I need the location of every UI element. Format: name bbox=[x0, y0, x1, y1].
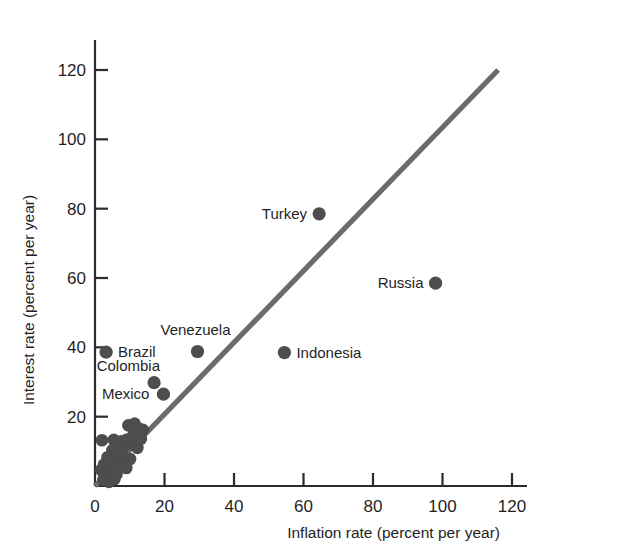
data-point-venezuela bbox=[191, 345, 204, 358]
data-point-russia bbox=[429, 277, 442, 290]
y-tick-label-80: 80 bbox=[67, 200, 86, 219]
x-axis-title: Inflation rate (percent per year) bbox=[287, 524, 500, 541]
data-point-turkey bbox=[313, 207, 326, 220]
point-label-venezuela: Venezuela bbox=[160, 321, 231, 338]
y-axis-title: Interest rate (percent per year) bbox=[20, 195, 37, 405]
x-tick-label-0: 0 bbox=[90, 497, 99, 516]
data-point bbox=[108, 473, 121, 486]
y-tick-label-60: 60 bbox=[67, 269, 86, 288]
point-label-mexico: Mexico bbox=[102, 385, 150, 402]
data-point bbox=[96, 434, 109, 447]
point-label-russia: Russia bbox=[378, 274, 425, 291]
x-tick-label-20: 20 bbox=[155, 497, 174, 516]
x-tick-label-80: 80 bbox=[364, 497, 383, 516]
point-label-indonesia: Indonesia bbox=[296, 344, 362, 361]
point-label-turkey: Turkey bbox=[262, 205, 308, 222]
data-point bbox=[115, 435, 128, 448]
x-tick-label-60: 60 bbox=[294, 497, 313, 516]
x-tick-label-40: 40 bbox=[225, 497, 244, 516]
y-tick-label-40: 40 bbox=[67, 338, 86, 357]
scatter-chart: 20406080100120020406080100120Inflation r… bbox=[0, 0, 638, 560]
data-point-indonesia bbox=[278, 346, 291, 359]
y-tick-label-20: 20 bbox=[67, 408, 86, 427]
x-tick-label-100: 100 bbox=[428, 497, 456, 516]
plot-area: 20406080100120020406080100120Inflation r… bbox=[0, 0, 638, 560]
y-tick-label-100: 100 bbox=[58, 130, 86, 149]
data-point bbox=[95, 464, 108, 477]
point-label-colombia: Colombia bbox=[97, 357, 161, 374]
y-tick-label-120: 120 bbox=[58, 61, 86, 80]
x-tick-label-120: 120 bbox=[498, 497, 526, 516]
data-point bbox=[135, 433, 148, 446]
data-point-mexico bbox=[157, 388, 170, 401]
